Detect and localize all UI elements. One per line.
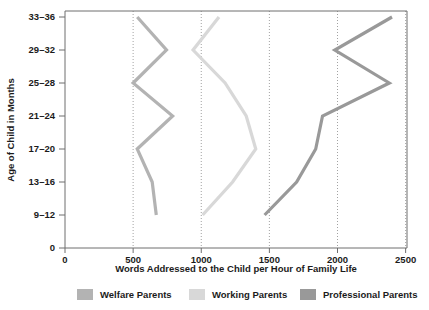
y-tick-label: 0 bbox=[50, 242, 55, 253]
x-tick-label: 2500 bbox=[395, 254, 416, 265]
legend-swatch bbox=[189, 289, 205, 300]
legend-label: Working Parents bbox=[212, 289, 287, 300]
legend-swatch bbox=[77, 289, 93, 300]
y-tick-label: 33–36 bbox=[29, 11, 55, 22]
y-tick-label: 29–32 bbox=[29, 44, 55, 55]
y-tick-label: 21–24 bbox=[29, 110, 56, 121]
legend-label: Welfare Parents bbox=[100, 289, 172, 300]
legend-swatch bbox=[300, 289, 316, 300]
chart-figure: 09–1213–1617–2021–2425–2829–3233–36 0500… bbox=[0, 0, 429, 310]
y-tick-label: 13–16 bbox=[29, 176, 55, 187]
chart-legend: Welfare ParentsWorking ParentsProfession… bbox=[77, 289, 418, 300]
y-tick-label: 17–20 bbox=[29, 143, 55, 154]
chart-canvas: 09–1213–1617–2021–2425–2829–3233–36 0500… bbox=[0, 0, 429, 310]
y-axis-title: Age of Child in Months bbox=[5, 78, 16, 181]
y-tick-label: 25–28 bbox=[29, 77, 55, 88]
x-tick-label: 0 bbox=[62, 254, 67, 265]
y-axis-ticks-group: 09–1213–1617–2021–2425–2829–3233–36 bbox=[29, 11, 65, 253]
legend-label: Professional Parents bbox=[323, 289, 418, 300]
y-tick-label: 9–12 bbox=[34, 209, 55, 220]
x-axis-title: Words Addressed to the Child per Hour of… bbox=[115, 263, 357, 274]
plot-area-background bbox=[65, 11, 407, 248]
